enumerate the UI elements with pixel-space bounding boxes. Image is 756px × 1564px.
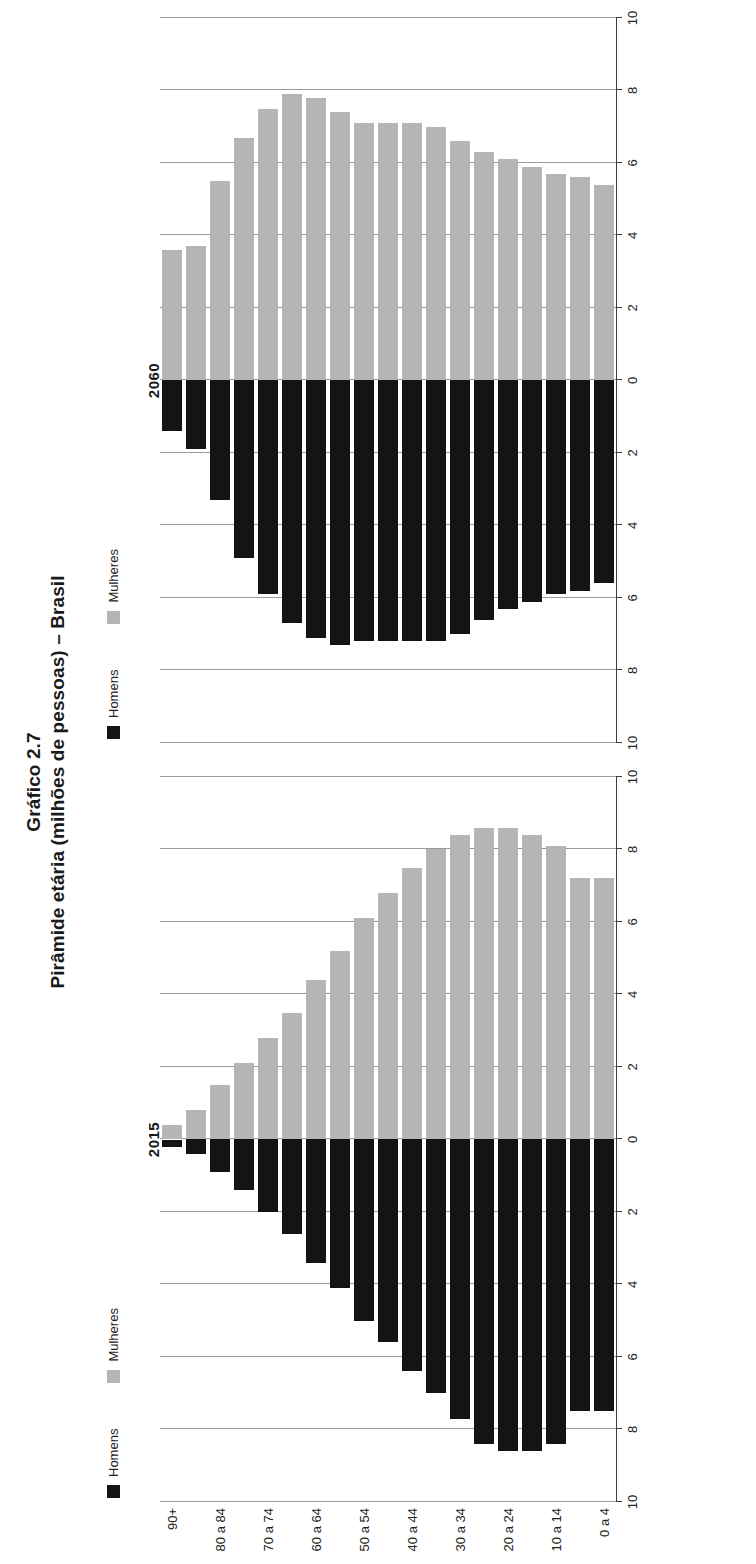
value-tick-label: 6 [625, 594, 640, 601]
bar-row [354, 18, 373, 743]
axis-tick [616, 525, 622, 526]
axis-tick [616, 307, 622, 308]
bar-mulheres [426, 127, 445, 381]
bar-mulheres [546, 174, 565, 381]
bar-row [282, 777, 301, 1502]
value-tick-label: 6 [625, 1353, 640, 1360]
bar-homens [402, 381, 421, 642]
bar-row [498, 777, 517, 1502]
bar-row [594, 777, 613, 1502]
category-tick-label: 30 a 34 [453, 1508, 468, 1551]
legend: HomensMulheres [96, 18, 130, 743]
bar-mulheres [594, 879, 613, 1140]
value-tick-label: 8 [625, 1426, 640, 1433]
bar-homens [258, 381, 277, 595]
bar-homens [186, 1140, 205, 1155]
bar-mulheres [258, 109, 277, 381]
bar-row [522, 18, 541, 743]
bar-homens [234, 381, 253, 559]
value-tick-label: 4 [625, 232, 640, 239]
value-tick-label: 10 [625, 11, 640, 25]
bar-mulheres [450, 141, 469, 380]
value-tick-label: 8 [625, 846, 640, 853]
legend-item-homens[interactable]: Homens [106, 1429, 121, 1498]
bar-group [160, 777, 616, 1502]
value-tick-label: 2 [625, 449, 640, 456]
bar-homens [306, 381, 325, 638]
category-tick-label: 90+ [165, 1508, 180, 1530]
bar-mulheres [402, 868, 421, 1140]
bar-row [306, 777, 325, 1502]
bar-mulheres [210, 181, 229, 380]
bar-homens [474, 1140, 493, 1445]
axis-tick [616, 235, 622, 236]
bar-homens [450, 1140, 469, 1419]
legend-swatch-mulheres-icon [107, 1370, 120, 1383]
bar-group [160, 18, 616, 743]
bar-homens [426, 381, 445, 642]
category-axis: Idade(anos) 0 a 410 a 1420 a 2430 a 3440… [96, 1502, 660, 1564]
bar-mulheres [234, 138, 253, 381]
legend-item-homens[interactable]: Homens [106, 670, 121, 739]
value-tick-label: 10 [625, 1495, 640, 1509]
bar-row [378, 777, 397, 1502]
bar-homens [450, 381, 469, 635]
bar-mulheres [306, 980, 325, 1140]
plot-area [160, 777, 616, 1502]
bar-row [210, 18, 229, 743]
value-tick-label: 6 [625, 918, 640, 925]
chart-number: Gráfico 2.7 [22, 0, 46, 1564]
bar-homens [570, 1140, 589, 1412]
bar-mulheres [282, 94, 301, 380]
legend-label: Homens [106, 1429, 121, 1477]
value-tick-label: 0 [625, 1136, 640, 1143]
bar-homens [546, 381, 565, 595]
category-tick-label: 10 a 14 [549, 1508, 564, 1551]
bar-row [306, 18, 325, 743]
bar-row [234, 18, 253, 743]
category-tick-label: 60 a 64 [309, 1508, 324, 1551]
bar-homens [162, 381, 181, 432]
axis-tick [616, 17, 622, 18]
bar-homens [426, 1140, 445, 1394]
bar-homens [282, 1140, 301, 1234]
bar-homens [330, 381, 349, 646]
legend-label: Homens [106, 670, 121, 718]
bar-mulheres [594, 185, 613, 381]
bar-mulheres [210, 1085, 229, 1139]
value-tick-label: 8 [625, 87, 640, 94]
category-tick-label: 50 a 54 [357, 1508, 372, 1551]
panel-year-wrap: 2060 [130, 18, 160, 743]
bar-mulheres [330, 112, 349, 380]
bar-row [546, 777, 565, 1502]
bar-homens [186, 381, 205, 450]
category-tick-label: 0 a 4 [597, 1508, 612, 1537]
bar-mulheres [522, 835, 541, 1140]
bar-row [330, 777, 349, 1502]
legend-item-mulheres[interactable]: Mulheres [106, 549, 121, 623]
bar-homens [330, 1140, 349, 1289]
axis-tick [616, 452, 622, 453]
bar-mulheres [186, 1111, 205, 1140]
bar-mulheres [162, 250, 181, 381]
bar-row [450, 777, 469, 1502]
bar-homens [594, 1140, 613, 1412]
bar-row [258, 777, 277, 1502]
chart-figure: Gráfico 2.7 Pirâmide etária (milhões de … [0, 0, 756, 1564]
legend-item-mulheres[interactable]: Mulheres [106, 1308, 121, 1382]
axis-tick [616, 380, 622, 381]
value-tick-label: 8 [625, 667, 640, 674]
bar-homens [306, 1140, 325, 1263]
category-tick-label: 20 a 24 [501, 1508, 516, 1551]
bar-homens [570, 381, 589, 591]
bar-mulheres [282, 1013, 301, 1140]
bar-row [498, 18, 517, 743]
value-tick-label: 10 [625, 770, 640, 784]
bar-row [570, 18, 589, 743]
value-tick-label: 4 [625, 522, 640, 529]
bar-homens [378, 1140, 397, 1343]
axis-tick [616, 1284, 622, 1285]
bar-mulheres [378, 123, 397, 380]
value-tick-label: 2 [625, 304, 640, 311]
bar-mulheres [498, 828, 517, 1140]
